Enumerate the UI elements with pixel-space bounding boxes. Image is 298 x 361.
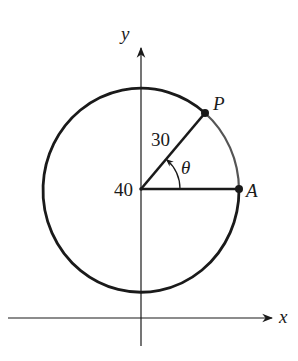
x-axis-label: x xyxy=(278,306,288,327)
center-dot xyxy=(139,187,143,191)
point-a-label: A xyxy=(244,180,258,201)
point-a-dot xyxy=(235,185,243,193)
radius-to-p xyxy=(141,113,205,189)
y-axis-label: y xyxy=(119,23,130,44)
radius-value-label: 30 xyxy=(151,129,170,150)
point-p-label: P xyxy=(212,93,225,114)
point-p-dot xyxy=(201,109,209,117)
arc-a-to-p xyxy=(205,113,239,190)
circle-diagram: y x P A 30 40 θ xyxy=(0,0,298,361)
angle-theta-label: θ xyxy=(181,157,190,178)
center-value-label: 40 xyxy=(114,179,133,200)
angle-arc xyxy=(167,160,180,189)
